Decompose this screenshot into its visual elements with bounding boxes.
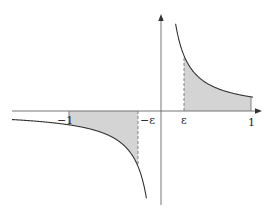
tick-label-neg-eps: −ε	[140, 114, 155, 127]
tick-label-neg-one: −1	[57, 114, 73, 127]
left-shaded-region	[69, 111, 138, 166]
x-axis-arrow-icon	[255, 108, 262, 113]
right-shaded-region	[184, 56, 251, 111]
tick-label-one: 1	[248, 116, 255, 129]
y-axis-arrow-icon	[158, 14, 163, 21]
tick-label-eps: ε	[181, 114, 187, 127]
diagram-canvas: −1 −ε ε 1	[0, 0, 271, 218]
